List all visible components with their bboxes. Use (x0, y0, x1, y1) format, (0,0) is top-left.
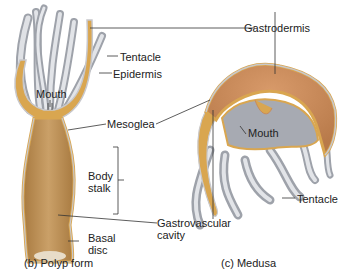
label-mouth-polyp: Mouth (36, 88, 67, 100)
label-mouth-medusa: Mouth (248, 127, 279, 139)
caption-polyp: (b) Polyp form (24, 257, 93, 269)
label-basal-disc-1: Basal (88, 232, 116, 244)
label-gastrovascular-1: Gastrovascular (157, 217, 231, 229)
label-gastrodermis: Gastrodermis (244, 22, 310, 34)
label-body-stalk-1: Body (88, 170, 113, 182)
cnidarian-body-forms-figure: Tentacle Epidermis Mouth Mesoglea Body s… (0, 0, 345, 273)
label-tentacle-medusa: Tentacle (297, 193, 338, 205)
label-gastrovascular-2: cavity (157, 229, 185, 241)
label-tentacle-polyp: Tentacle (120, 51, 161, 63)
label-body-stalk-2: stalk (88, 182, 111, 194)
label-basal-disc-2: disc (88, 244, 108, 256)
label-mesoglea: Mesoglea (107, 118, 155, 130)
caption-medusa: (c) Medusa (221, 257, 276, 269)
label-epidermis: Epidermis (113, 68, 162, 80)
polyp-illustration (15, 8, 102, 262)
